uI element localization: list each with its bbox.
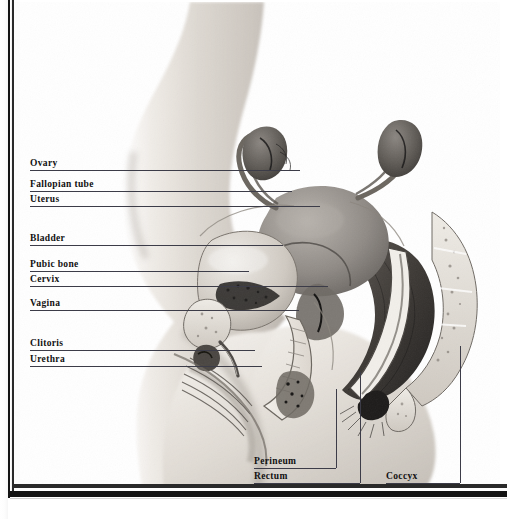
leader-line-perineum: [254, 468, 336, 469]
page-border-left-inner: [12, 0, 14, 494]
leader-riser-rectum: [360, 372, 361, 483]
leader-line-ovary: [30, 170, 300, 171]
label-cervix: Cervix: [30, 274, 60, 285]
page-border-left: [8, 0, 10, 498]
label-uterus: Uterus: [30, 194, 60, 205]
leader-riser-coccyx: [460, 346, 461, 483]
label-coccyx: Coccyx: [386, 471, 418, 482]
label-ovary: Ovary: [30, 158, 58, 169]
leader-riser-perineum: [336, 389, 337, 468]
label-perineum: Perineum: [254, 456, 296, 467]
label-vagina: Vagina: [30, 298, 60, 309]
leader-line-bladder: [30, 245, 283, 246]
leader-line-fallopian-tube: [30, 191, 292, 192]
leader-line-clitoris: [30, 350, 255, 351]
label-bladder: Bladder: [30, 233, 65, 244]
page-spine-shadow: [0, 0, 8, 519]
scanned-page: Ovary Fallopian tube Uterus Bladder Pubi…: [0, 0, 507, 519]
label-clitoris: Clitoris: [30, 338, 63, 349]
label-rectum: Rectum: [254, 471, 288, 482]
page-border-bottom: [8, 491, 507, 497]
leader-line-pubic-bone: [30, 271, 249, 272]
leader-line-coccyx: [386, 483, 460, 484]
leader-line-vagina: [30, 310, 299, 311]
label-fallopian-tube: Fallopian tube: [30, 179, 94, 190]
leader-line-urethra: [30, 366, 262, 367]
label-pubic-bone: Pubic bone: [30, 259, 79, 270]
leader-line-rectum: [254, 483, 360, 484]
label-urethra: Urethra: [30, 354, 65, 365]
leader-line-uterus: [30, 206, 320, 207]
page-border-bottom-inner: [14, 484, 507, 488]
leader-line-cervix: [30, 286, 328, 287]
page-border-bottom-highlight: [10, 498, 507, 499]
